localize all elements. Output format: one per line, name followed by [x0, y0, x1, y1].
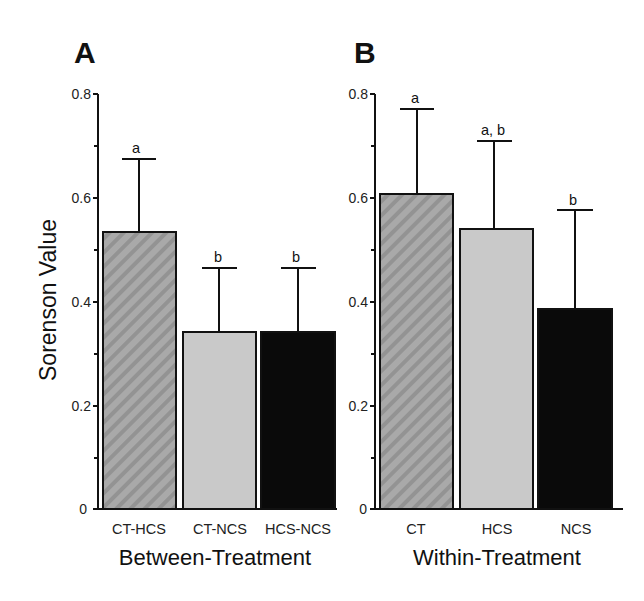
significance-label: b [569, 192, 577, 208]
y-tick-label: 0 [359, 501, 367, 517]
y-tick-label: 0.2 [349, 398, 369, 414]
bar-ct-ncs [183, 332, 256, 509]
panel-a-letter: A [74, 36, 96, 69]
significance-label: a, b [481, 122, 505, 138]
bar-ct-hcs [103, 232, 176, 509]
x-category-label: CT [406, 521, 425, 537]
y-tick-label: 0.6 [72, 190, 92, 206]
panel-b-y-ticks: 0 0.2 0.4 0.6 0.8 [349, 86, 369, 517]
significance-label: b [214, 249, 222, 265]
y-tick-label: 0.6 [349, 190, 369, 206]
panel-b-letter: B [354, 36, 376, 69]
bar-ncs [538, 309, 612, 509]
panel-a-y-ticks: 0 0.2 0.4 0.6 0.8 [72, 86, 92, 517]
significance-label: a [132, 140, 141, 156]
y-tick-label: 0 [79, 501, 87, 517]
x-category-label: NCS [561, 521, 592, 537]
x-category-label: CT-NCS [193, 521, 247, 537]
bar-hcs [460, 229, 533, 509]
x-axis-title: Within-Treatment [413, 545, 581, 570]
x-category-label: HCS-NCS [265, 521, 331, 537]
bar-ct [380, 194, 453, 509]
panel-a: A 0 0.2 0.4 0.6 0.8 [72, 36, 337, 570]
x-category-label: HCS [482, 521, 513, 537]
y-tick-label: 0.4 [349, 294, 369, 310]
x-axis-title: Between-Treatment [119, 545, 311, 570]
y-tick-label: 0.8 [72, 86, 92, 102]
panel-b: B 0 0.2 0.4 0.6 0.8 [349, 36, 623, 570]
y-tick-label: 0.2 [72, 398, 92, 414]
figure: Sorenson Value A 0 0.2 0.4 0.6 0.8 [0, 0, 644, 601]
y-tick-label: 0.8 [349, 86, 369, 102]
y-axis-title: Sorenson Value [35, 219, 61, 381]
x-category-label: CT-HCS [112, 521, 166, 537]
y-tick-label: 0.4 [72, 294, 92, 310]
significance-label: b [292, 249, 300, 265]
bar-hcs-ncs [261, 332, 335, 509]
significance-label: a [411, 90, 420, 106]
